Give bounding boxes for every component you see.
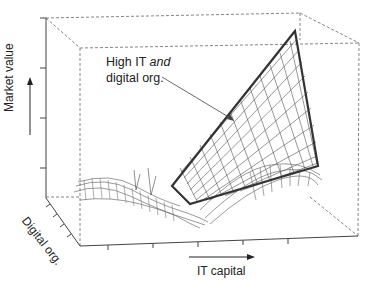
annotation-line1: High IT xyxy=(106,55,150,69)
annotation-high-it-digital: High IT and digital org. xyxy=(106,54,170,86)
market-value-arrow xyxy=(27,77,33,135)
annotation-line2: digital org. xyxy=(106,71,164,85)
annotation-arrow xyxy=(162,77,234,121)
z-axis-label: Market value xyxy=(2,43,16,112)
annotation-italic: and xyxy=(150,55,171,69)
it-capital-arrow xyxy=(189,254,255,260)
x-axis-label: IT capital xyxy=(197,264,245,278)
highlight-region xyxy=(172,31,318,204)
